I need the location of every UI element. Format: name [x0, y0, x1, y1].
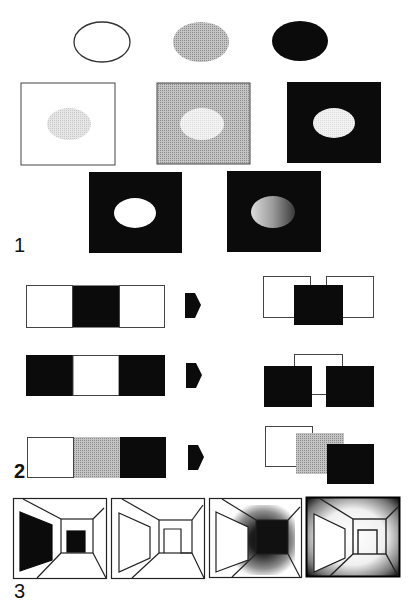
- corridor-panel-4: [306, 497, 400, 577]
- strip-cell-black: [26, 355, 73, 396]
- section-label-3: 3: [14, 581, 25, 601]
- arrow-right-icon: [185, 293, 201, 318]
- section-label-2: 2: [14, 461, 25, 481]
- result-black-square: [327, 444, 374, 484]
- result-black-square-right: [326, 366, 374, 407]
- strip-cell-white: [28, 438, 74, 478]
- very-light-ellipse-on-black: [313, 108, 355, 138]
- strip-cell-black: [73, 286, 119, 328]
- section-1-squares-row: [21, 82, 381, 165]
- strip-cell-black: [119, 355, 165, 396]
- black-ellipse: [272, 21, 328, 61]
- figure-canvas: [0, 0, 413, 603]
- section-1-bottom-row: [89, 171, 321, 253]
- section-2-row-1: [27, 277, 374, 328]
- strip-cell-white: [73, 356, 119, 396]
- section-1-ellipses: [74, 21, 328, 62]
- result-black-square: [294, 285, 343, 325]
- strip-cell-gray: [74, 437, 120, 478]
- strip-cell-white: [27, 286, 73, 328]
- very-light-ellipse: [180, 108, 224, 140]
- section-2-row-3: [28, 427, 375, 485]
- result-black-square-left: [264, 366, 312, 407]
- corridor-panel-1: [14, 499, 107, 579]
- gradient-ellipse: [251, 196, 295, 228]
- white-ellipse-on-black: [114, 198, 156, 228]
- gray-ellipse: [173, 22, 229, 62]
- arrow-right-icon: [186, 363, 202, 388]
- section-2-row-2: [26, 355, 374, 408]
- corridor-panel-3: [210, 499, 302, 578]
- corridor-panel-2: [112, 499, 205, 579]
- strip-cell-white: [120, 286, 165, 328]
- light-gray-ellipse: [47, 108, 91, 140]
- white-ellipse: [74, 22, 130, 62]
- strip-cell-black: [120, 437, 166, 478]
- arrow-right-icon: [188, 445, 204, 470]
- section-label-1: 1: [14, 235, 25, 255]
